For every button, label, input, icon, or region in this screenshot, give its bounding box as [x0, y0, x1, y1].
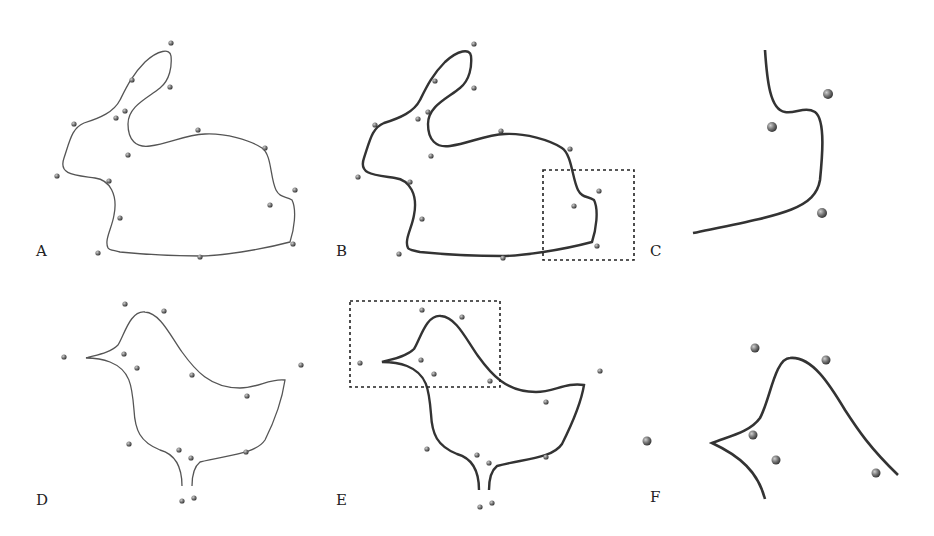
- control-point: [498, 128, 503, 133]
- panel-c: C: [650, 50, 833, 260]
- control-point: [596, 188, 601, 193]
- control-point: [597, 368, 602, 373]
- control-point: [643, 437, 652, 446]
- control-point: [487, 378, 492, 383]
- control-points: [357, 307, 602, 509]
- control-point: [197, 254, 202, 259]
- control-point: [751, 344, 760, 353]
- figure-canvas: A B C: [0, 0, 934, 536]
- control-point: [61, 354, 66, 359]
- panel-label-c: C: [650, 242, 661, 260]
- control-point: [431, 371, 436, 376]
- control-point: [176, 447, 181, 452]
- highlight-box: [543, 170, 634, 260]
- control-point: [407, 179, 412, 184]
- panel-e: E: [336, 301, 603, 510]
- control-point: [396, 251, 401, 256]
- control-point: [262, 145, 267, 150]
- control-point: [823, 89, 833, 99]
- control-point: [428, 153, 433, 158]
- control-point: [372, 122, 377, 127]
- control-point: [418, 357, 423, 362]
- control-point: [594, 243, 599, 248]
- control-point: [54, 173, 59, 178]
- control-point: [243, 449, 248, 454]
- control-point: [125, 152, 130, 157]
- control-point: [419, 216, 424, 221]
- control-points: [61, 301, 303, 503]
- control-point: [189, 372, 194, 377]
- control-point: [267, 202, 272, 207]
- control-point: [459, 314, 464, 319]
- panel-a: A: [35, 40, 298, 260]
- control-point: [292, 187, 297, 192]
- control-point: [71, 121, 76, 126]
- panel-label-d: D: [36, 491, 48, 509]
- control-point: [477, 504, 482, 509]
- zoomed-curve: [712, 358, 898, 499]
- panel-label-b: B: [336, 242, 347, 260]
- control-point: [298, 362, 303, 367]
- bird-curve: [382, 316, 584, 490]
- control-point: [424, 446, 429, 451]
- control-point: [471, 85, 476, 90]
- control-point: [872, 469, 881, 478]
- control-point: [425, 109, 430, 114]
- control-point: [134, 365, 139, 370]
- control-point: [117, 215, 122, 220]
- panel-f: F: [643, 344, 899, 507]
- control-point: [571, 203, 576, 208]
- control-point: [357, 360, 362, 365]
- rabbit-curve: [363, 51, 597, 256]
- control-point: [432, 78, 437, 83]
- control-point: [817, 208, 827, 218]
- control-point: [486, 460, 491, 465]
- control-point: [244, 393, 249, 398]
- control-point: [106, 178, 111, 183]
- control-point: [415, 116, 420, 121]
- control-point: [749, 431, 758, 440]
- panel-label-e: E: [336, 491, 347, 509]
- rabbit-curve: [63, 51, 295, 256]
- control-point: [188, 455, 193, 460]
- control-point: [489, 500, 494, 505]
- control-point: [126, 441, 131, 446]
- control-point: [471, 41, 476, 46]
- control-point: [822, 356, 831, 365]
- control-point: [290, 241, 295, 246]
- panel-d: D: [36, 301, 304, 509]
- control-point: [195, 127, 200, 132]
- zoomed-curve: [693, 50, 822, 233]
- panel-label-a: A: [35, 242, 47, 260]
- control-point: [543, 454, 548, 459]
- control-point: [543, 399, 548, 404]
- control-point: [772, 456, 781, 465]
- control-point: [355, 174, 360, 179]
- panel-label-f: F: [650, 488, 660, 506]
- control-point: [191, 495, 196, 500]
- panel-b: B: [336, 41, 634, 260]
- control-point: [167, 84, 172, 89]
- bird-curve: [86, 312, 285, 486]
- highlight-box: [350, 301, 500, 387]
- control-point: [113, 115, 118, 120]
- control-points: [54, 40, 297, 259]
- control-point: [161, 308, 166, 313]
- control-point: [474, 452, 479, 457]
- control-point: [121, 351, 126, 356]
- control-point: [567, 146, 572, 151]
- control-point: [419, 307, 424, 312]
- control-point: [122, 108, 127, 113]
- control-point: [129, 77, 134, 82]
- control-point: [179, 498, 184, 503]
- control-point: [95, 250, 100, 255]
- control-point: [168, 40, 173, 45]
- control-point: [767, 122, 777, 132]
- control-point: [122, 301, 127, 306]
- control-point: [500, 255, 505, 260]
